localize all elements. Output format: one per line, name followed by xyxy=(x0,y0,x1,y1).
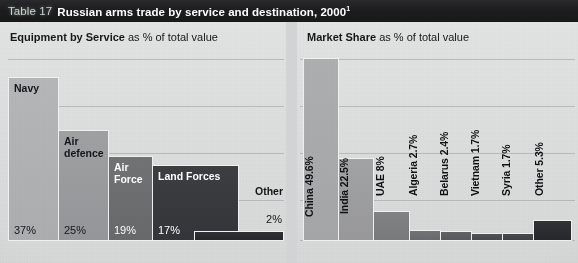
bar-label-china: China 49.6% xyxy=(303,156,315,217)
bar-belarus[interactable] xyxy=(440,231,472,241)
footnote-marker: 1 xyxy=(346,5,350,12)
bar-label-other: Other 5.3% xyxy=(533,142,545,196)
subtitle-market-share: Market Share as % of total value xyxy=(307,31,469,43)
bar-algeria[interactable] xyxy=(409,230,441,241)
subtitle-equipment-bold: Equipment by Service xyxy=(10,31,125,43)
panel-equipment-by-service: Equipment by Service as % of total value… xyxy=(0,22,286,263)
panel-divider xyxy=(286,22,297,263)
panel-market-share: Market Share as % of total value xyxy=(297,22,578,263)
bar-value-other: 2% xyxy=(266,213,282,225)
table-number: Table 17 xyxy=(8,5,52,17)
bar-group-left: Navy 37% Air defence 25% Air Force 19% L… xyxy=(8,34,284,241)
subtitle-equipment-rest: as % of total value xyxy=(125,31,218,43)
plot-area-right: China 49.6% India 22.5% UAE 8% Algeria 2… xyxy=(300,34,575,241)
subtitle-equipment: Equipment by Service as % of total value xyxy=(10,31,218,43)
bar-label-navy: Navy xyxy=(14,82,39,94)
bar-land-forces[interactable]: Land Forces 17% xyxy=(152,165,239,241)
bar-syria[interactable] xyxy=(502,233,534,241)
bar-label-syria: Syria 1.7% xyxy=(500,144,512,196)
bar-label-algeria: Algeria 2.7% xyxy=(407,135,419,196)
bar-value-navy: 37% xyxy=(14,224,36,236)
bar-other[interactable] xyxy=(194,231,284,241)
bar-label-india: India 22.5% xyxy=(338,158,350,214)
bar-label-air-force: Air Force xyxy=(114,161,148,185)
subtitle-market-share-bold: Market Share xyxy=(307,31,376,43)
bar-label-land-forces: Land Forces xyxy=(158,170,220,182)
bar-vietnam[interactable] xyxy=(471,233,503,241)
bar-air-defence[interactable]: Air defence 25% xyxy=(58,130,109,241)
bar-navy[interactable]: Navy 37% xyxy=(8,77,59,241)
bar-other-market[interactable] xyxy=(533,220,572,241)
bar-label-vietnam: Vietnam 1.7% xyxy=(469,130,481,196)
bar-label-belarus: Belarus 2.4% xyxy=(438,132,450,196)
page-title: Russian arms trade by service and destin… xyxy=(57,5,350,18)
bar-air-force[interactable]: Air Force 19% xyxy=(108,156,153,241)
bar-value-air-force: 19% xyxy=(114,224,136,236)
bar-group-right: China 49.6% India 22.5% UAE 8% Algeria 2… xyxy=(300,34,575,241)
subtitle-market-share-rest: as % of total value xyxy=(376,31,469,43)
table-figure: Table 17 Russian arms trade by service a… xyxy=(0,0,578,263)
bar-uae[interactable] xyxy=(373,211,410,241)
plot-area-left: Navy 37% Air defence 25% Air Force 19% L… xyxy=(8,34,284,241)
figure-header: Table 17 Russian arms trade by service a… xyxy=(0,0,578,22)
bar-value-air-defence: 25% xyxy=(64,224,86,236)
bar-value-land-forces: 17% xyxy=(158,224,180,236)
bar-label-other: Other xyxy=(255,185,283,197)
bar-label-uae: UAE 8% xyxy=(374,156,386,196)
page-title-text: Russian arms trade by service and destin… xyxy=(57,5,346,17)
bar-label-air-defence: Air defence xyxy=(64,135,108,159)
